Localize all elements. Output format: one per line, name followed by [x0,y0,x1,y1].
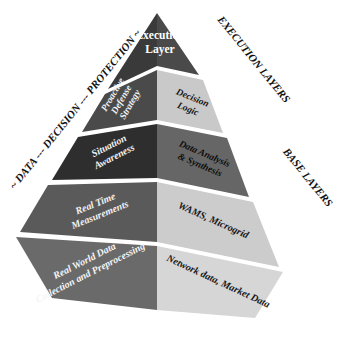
apex-label-line2: Layer [145,43,174,56]
right-axis-label-top: EXECUTION LAYERS [215,13,293,105]
right-axis-label-bottom: BASE LAYERS [280,145,335,209]
pyramid-diagram: Execution Layer Proactive Defense Strate… [0,0,346,338]
right-axis-label-bottom-text: BASE LAYERS [280,145,335,209]
apex-label-line1: Execution [135,29,185,41]
pyramid-svg: Execution Layer Proactive Defense Strate… [0,0,346,338]
right-axis-label-top-text: EXECUTION LAYERS [215,13,293,105]
